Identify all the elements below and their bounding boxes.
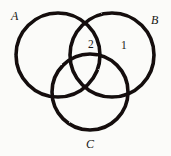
venn-diagram-figure: A B C 2 1 xyxy=(0,0,171,156)
set-label-a: A xyxy=(11,10,19,22)
set-label-c: C xyxy=(86,138,94,150)
set-label-b: B xyxy=(151,14,159,26)
venn-circles-canvas xyxy=(0,0,171,156)
region-count-a-and-b: 2 xyxy=(88,39,94,51)
region-count-b-only: 1 xyxy=(121,40,127,52)
